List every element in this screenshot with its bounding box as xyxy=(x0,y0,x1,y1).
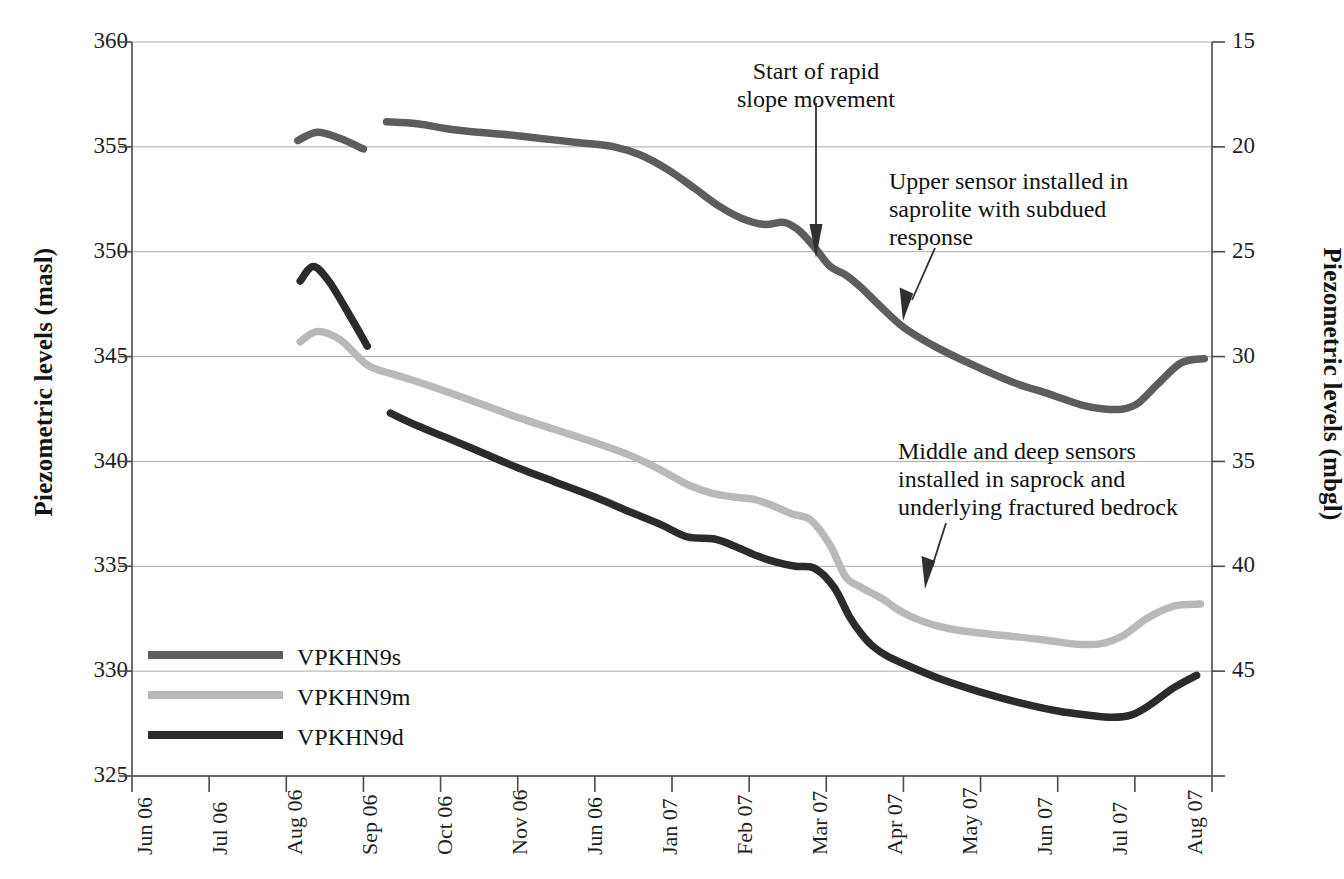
legend-swatches xyxy=(148,655,283,735)
annotation-arrow-start xyxy=(810,103,823,258)
annotation-arrow-middle xyxy=(922,523,947,589)
gridlines xyxy=(132,42,1212,776)
annotation-arrow-upper xyxy=(900,248,935,321)
data-series-group xyxy=(298,122,1204,718)
chart-container: Piezometric levels (masl) Piezometric le… xyxy=(0,0,1344,879)
x-tick-marks xyxy=(132,776,1212,792)
plot-area xyxy=(0,0,1344,879)
y-tick-marks xyxy=(119,42,1225,776)
